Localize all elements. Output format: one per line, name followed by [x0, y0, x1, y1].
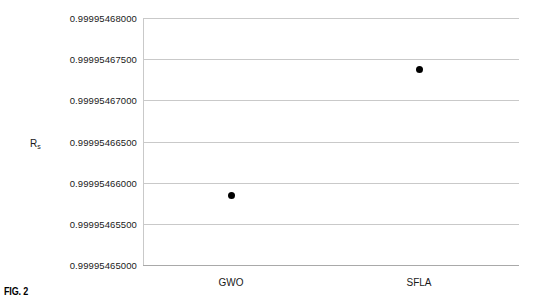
y-axis-tick-label: 0.99995467500: [17, 54, 137, 65]
figure-caption: FIG. 2: [4, 285, 28, 297]
data-point: [228, 192, 235, 199]
plot-area: [143, 18, 519, 265]
y-axis-tick-label: 0.99995467000: [17, 95, 137, 106]
x-axis-tick-label: SFLA: [406, 277, 431, 288]
gridline: [143, 265, 519, 266]
gridline: [143, 18, 519, 19]
y-axis-tick-label: 0.99995466500: [17, 136, 137, 147]
y-axis-tick-label: 0.99995465000: [17, 260, 137, 271]
y-axis-tick-label: 0.99995468000: [17, 13, 137, 24]
gridline: [143, 142, 519, 143]
gridline: [143, 59, 519, 60]
y-axis-tick-labels: 0.999954680000.999954675000.999954670000…: [10, 18, 137, 265]
gridline: [143, 183, 519, 184]
gridline: [143, 100, 519, 101]
y-axis-tick-label: 0.99995465500: [17, 218, 137, 229]
data-point: [416, 66, 423, 73]
x-axis-tick-label: GWO: [219, 277, 244, 288]
figure-root: Rs 0.999954680000.999954675000.999954670…: [0, 0, 533, 303]
y-axis-tick-label: 0.99995466000: [17, 177, 137, 188]
gridline: [143, 224, 519, 225]
